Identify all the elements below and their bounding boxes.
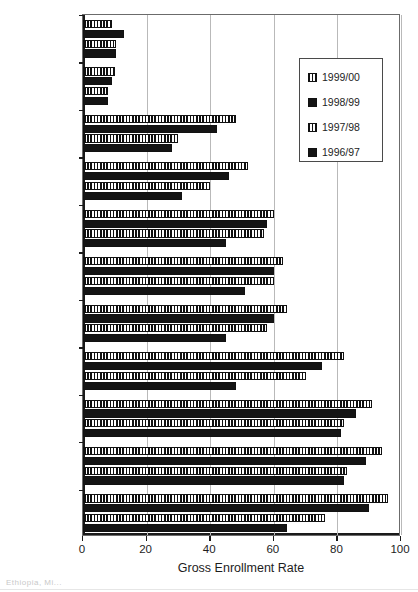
- bar: [83, 382, 236, 390]
- bar: [83, 447, 382, 455]
- bar: [83, 67, 115, 75]
- bar: [83, 305, 287, 313]
- x-axis-tick: [82, 536, 83, 541]
- x-axis-line: [83, 533, 399, 535]
- y-axis-tick: [79, 15, 83, 16]
- bar: [83, 524, 287, 532]
- bar: [83, 476, 344, 484]
- y-axis-tick: [79, 252, 83, 253]
- page-caption-artifact: Ethiopia, Mi...: [6, 578, 62, 587]
- y-axis-tick: [79, 205, 83, 206]
- legend-swatch-icon: [308, 123, 317, 132]
- bar: [83, 429, 341, 437]
- bar: [83, 220, 267, 228]
- bar: [83, 49, 116, 57]
- bar: [83, 229, 264, 237]
- bar: [83, 162, 248, 170]
- bar: [83, 125, 217, 133]
- legend-swatch-icon: [308, 148, 317, 157]
- bar: [83, 314, 274, 322]
- y-axis-tick: [79, 442, 83, 443]
- x-axis-title: Gross Enrollment Rate: [82, 561, 400, 575]
- legend-label: 1999/00: [322, 72, 360, 83]
- bar: [83, 97, 108, 105]
- y-axis-tick: [79, 490, 83, 491]
- bar: [83, 409, 356, 417]
- bar: [83, 352, 344, 360]
- bar: [83, 400, 372, 408]
- x-axis-tick: [400, 536, 401, 541]
- bar: [83, 40, 116, 48]
- bar: [83, 182, 210, 190]
- y-axis-tick: [79, 347, 83, 348]
- legend-item: 1999/00: [308, 72, 360, 83]
- bar: [83, 134, 178, 142]
- bar: [83, 77, 112, 85]
- bar: [83, 192, 182, 200]
- x-axis-tick-label: 60: [253, 543, 293, 556]
- grid-line: [401, 15, 402, 535]
- bar: [83, 457, 366, 465]
- x-axis-tick-label: 80: [316, 543, 356, 556]
- x-axis-tick: [336, 536, 337, 541]
- x-axis-tick-label: 40: [189, 543, 229, 556]
- bar: [83, 239, 226, 247]
- bar: [83, 467, 347, 475]
- bar: [83, 514, 325, 522]
- legend-label: 1996/97: [322, 147, 360, 158]
- bar: [83, 324, 267, 332]
- legend-label: 1997/98: [322, 122, 360, 133]
- y-axis-tick: [79, 157, 83, 158]
- bar: [83, 257, 283, 265]
- legend-item: 1998/99: [308, 97, 360, 108]
- x-axis-tick: [209, 536, 210, 541]
- bar: [83, 210, 274, 218]
- gross-enrollment-rate-chart: SomaliAfarAmharaOromiyaSNNPRDire DawaTig…: [0, 0, 418, 592]
- bar: [83, 20, 112, 28]
- bar: [83, 334, 226, 342]
- x-axis-tick: [273, 536, 274, 541]
- y-axis-tick: [79, 110, 83, 111]
- bar: [83, 494, 388, 502]
- x-axis-tick-label: 100: [380, 543, 418, 556]
- x-axis-tick: [146, 536, 147, 541]
- bar: [83, 504, 369, 512]
- scan-edge-artifact: [0, 589, 418, 590]
- legend-label: 1998/99: [322, 97, 360, 108]
- legend-item: 1997/98: [308, 122, 360, 133]
- bar: [83, 287, 245, 295]
- y-axis-tick: [79, 300, 83, 301]
- legend: 1999/001998/991997/981996/97: [299, 58, 383, 162]
- bar: [83, 30, 124, 38]
- x-axis-tick-label: 20: [126, 543, 166, 556]
- bar: [83, 172, 229, 180]
- legend-swatch-icon: [308, 98, 317, 107]
- bar: [83, 267, 274, 275]
- bar: [83, 144, 172, 152]
- y-axis-tick: [79, 395, 83, 396]
- bar: [83, 372, 306, 380]
- bar: [83, 277, 274, 285]
- y-axis-tick: [79, 62, 83, 63]
- legend-swatch-icon: [308, 73, 317, 82]
- legend-item: 1996/97: [308, 147, 360, 158]
- bar: [83, 115, 236, 123]
- bar: [83, 87, 108, 95]
- x-axis-tick-label: 0: [62, 543, 102, 556]
- bar: [83, 362, 322, 370]
- bar: [83, 419, 344, 427]
